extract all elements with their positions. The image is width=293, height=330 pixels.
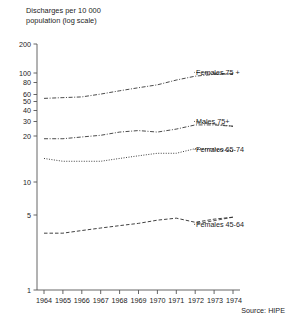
series-line-females-75-plus — [44, 74, 233, 98]
x-tick-label: 1971 — [168, 296, 184, 305]
x-tick-label: 1974 — [226, 296, 242, 305]
series-label-females-75-plus: Females 75 + — [196, 68, 240, 77]
x-tick-label: 1969 — [131, 296, 147, 305]
x-tick-label: 1973 — [207, 296, 223, 305]
chart-axes — [37, 44, 240, 290]
y-tick-label: 80 — [23, 78, 31, 87]
y-tick-label: 50 — [23, 97, 31, 106]
x-tick-marks — [44, 290, 233, 294]
series-label-females-45-64: Females 45-64 — [196, 220, 244, 229]
series-line-males-75-plus — [44, 125, 233, 139]
series-labels: Females 75 + Males 75+ Females 65-74 Fem… — [196, 68, 244, 229]
series-label-males-75-plus: Males 75+ — [196, 117, 229, 126]
x-tick-label: 1964 — [36, 296, 52, 305]
x-axis-tick-labels: 1964 1965 1966 1967 1968 1969 1970 1971 … — [36, 296, 242, 305]
y-tick-label: 5 — [27, 211, 31, 220]
chart-figure: Discharges per 10 000population (log sca… — [0, 0, 293, 330]
y-tick-label: 40 — [23, 106, 31, 115]
y-tick-label: 10 — [23, 178, 31, 187]
source-note: Source: HIPE — [241, 306, 285, 315]
y-tick-marks — [34, 44, 38, 290]
y-tick-label: 1 — [27, 286, 31, 295]
x-tick-label: 1968 — [112, 296, 128, 305]
x-tick-label: 1966 — [74, 296, 90, 305]
x-tick-label: 1965 — [55, 296, 71, 305]
x-tick-label: 1972 — [188, 296, 204, 305]
x-tick-label: 1970 — [149, 296, 165, 305]
series-label-females-65-74: Females 65-74 — [196, 145, 244, 154]
x-tick-label: 1967 — [93, 296, 109, 305]
y-axis-tick-labels: 200 100 80 60 50 40 30 20 10 5 1 — [19, 40, 31, 295]
y-tick-label: 200 — [19, 40, 31, 49]
y-tick-label: 100 — [19, 69, 31, 78]
chart-plot-area: 200 100 80 60 50 40 30 20 10 5 1 — [0, 0, 293, 330]
y-tick-label: 30 — [23, 117, 31, 126]
y-tick-label: 20 — [23, 132, 31, 141]
